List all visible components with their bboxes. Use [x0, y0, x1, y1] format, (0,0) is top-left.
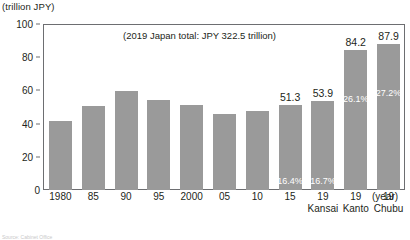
y-axis-tick: 20 [0, 151, 40, 162]
bar[interactable] [246, 111, 269, 190]
x-axis-sublabel: Kansai [307, 203, 340, 215]
x-axis-label: 05 [208, 191, 241, 214]
y-axis-tick: 80 [0, 52, 40, 63]
bar[interactable] [82, 106, 105, 190]
bar-share-label: 16.4% [277, 176, 303, 186]
bar-cell: 53.916.7% [307, 24, 340, 190]
x-axis-unit-caption: (year) [372, 191, 398, 202]
bar-share-label: 27.2% [376, 88, 402, 98]
bar-series: 51.316.4%53.916.7%84.226.1%87.927.2% [44, 24, 405, 190]
x-axis-label: 1980 [44, 191, 77, 214]
bar-cell [241, 24, 274, 190]
bar[interactable] [115, 91, 138, 190]
bar-share-label: 26.1% [343, 94, 369, 104]
x-axis-label: 90 [110, 191, 143, 214]
bar-cell [142, 24, 175, 190]
x-axis-sublabel: Kanto [339, 203, 372, 215]
bar[interactable] [147, 100, 170, 190]
bar-value-label: 51.3 [280, 91, 300, 103]
y-axis-tick-label: 40 [0, 118, 36, 129]
bar-cell [44, 24, 77, 190]
y-axis-tick-label: 80 [0, 52, 36, 63]
y-axis-tick-mark [36, 24, 40, 25]
y-axis-tick-label: 60 [0, 85, 36, 96]
x-axis-label: 19Kansai [307, 191, 340, 214]
bar[interactable]: 51.316.4% [279, 105, 302, 190]
x-axis-sublabel: Chubu [372, 203, 405, 215]
y-axis-tick: 60 [0, 85, 40, 96]
x-axis-label: 2000 [175, 191, 208, 214]
bar[interactable] [49, 121, 72, 190]
x-axis-label: 10 [241, 191, 274, 214]
y-axis-unit-caption: (trillion JPY) [2, 1, 55, 12]
y-axis-tick: 40 [0, 118, 40, 129]
bar[interactable]: 53.916.7% [311, 101, 334, 190]
bar[interactable] [213, 114, 236, 190]
x-axis-label: 15 [274, 191, 307, 214]
bar-value-label: 87.9 [378, 30, 398, 42]
bar[interactable] [180, 105, 203, 190]
y-axis-tick-mark [36, 57, 40, 58]
bar-cell [208, 24, 241, 190]
bar-cell [175, 24, 208, 190]
bar-value-label: 53.9 [313, 87, 333, 99]
y-axis-tick-mark [36, 90, 40, 91]
source-note: Source: Cabinet Office [2, 234, 52, 240]
x-axis-label: 19Kanto [339, 191, 372, 214]
y-axis-tick-mark [36, 156, 40, 157]
y-axis-tick: 100 [0, 19, 40, 30]
y-axis-tick-label: 100 [0, 19, 36, 30]
y-axis-zero-label: 0 [0, 185, 40, 196]
bar-cell: 87.927.2% [372, 24, 405, 190]
bar-cell [110, 24, 143, 190]
bar-value-label: 84.2 [346, 36, 366, 48]
x-axis-label: 85 [77, 191, 110, 214]
bar-cell: 84.226.1% [339, 24, 372, 190]
bar[interactable]: 87.927.2% [377, 44, 400, 190]
bar-cell: 51.316.4% [274, 24, 307, 190]
bar-share-label: 16.7% [310, 176, 336, 186]
x-axis-label: 95 [142, 191, 175, 214]
y-axis-tick-mark [36, 123, 40, 124]
chart-root: (trillion JPY) 10080604020 0 (2019 Japan… [0, 0, 410, 240]
bar-cell [77, 24, 110, 190]
y-axis-tick-label: 20 [0, 151, 36, 162]
bar[interactable]: 84.226.1% [344, 50, 367, 190]
x-axis-labels: 1980859095200005101519Kansai19Kanto19Chu… [44, 191, 405, 214]
